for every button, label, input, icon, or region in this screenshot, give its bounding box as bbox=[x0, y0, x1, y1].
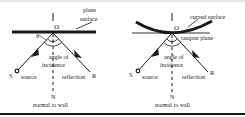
point-N-label: N bbox=[51, 94, 56, 100]
plane-label-pointer bbox=[76, 22, 92, 29]
reflected-arrow-icon bbox=[74, 50, 82, 58]
point-R-label: R bbox=[210, 69, 215, 76]
angle-label-line2: incidence bbox=[160, 62, 183, 68]
angle-label-line1: angle of bbox=[49, 54, 69, 60]
source-point-icon bbox=[136, 69, 140, 73]
tangent-plane-label: tangent plane bbox=[181, 35, 213, 41]
bottom-border bbox=[0, 113, 245, 115]
incident-arrow-icon bbox=[31, 48, 39, 57]
source-label: source bbox=[21, 74, 37, 80]
reflection-label: reflection bbox=[182, 74, 205, 80]
curved-label-pointer bbox=[188, 19, 198, 27]
plane-label-line2: surface bbox=[80, 16, 98, 22]
point-S-label: S bbox=[9, 72, 13, 79]
normal-label: normal to wall bbox=[33, 102, 68, 108]
reflection-diagram: θ O plane surface α angle of incidence S… bbox=[0, 0, 245, 117]
incident-arrow-icon bbox=[151, 48, 159, 57]
normal-label: normal to wall bbox=[155, 102, 190, 108]
theta-symbol: θ bbox=[171, 38, 174, 43]
point-N-label: N bbox=[170, 94, 175, 100]
left-panel-plane-reflection: θ O plane surface α angle of incidence S… bbox=[9, 7, 98, 108]
reflected-arrow-icon bbox=[192, 50, 200, 58]
source-point-icon bbox=[15, 69, 19, 73]
point-O-label: O bbox=[54, 23, 59, 31]
theta-symbol: θ bbox=[52, 38, 55, 43]
alpha-symbol: α bbox=[36, 33, 40, 39]
reflection-label: reflection bbox=[62, 74, 85, 80]
angle-label-line2: incidence bbox=[42, 62, 65, 68]
diagram-frame: θ O plane surface α angle of incidence S… bbox=[0, 0, 245, 117]
curved-surface-label: curved surface bbox=[190, 14, 225, 20]
point-R-label: R bbox=[92, 72, 97, 79]
point-S-label: S bbox=[129, 71, 133, 78]
plane-label-line1: plane bbox=[83, 7, 96, 13]
source-label: source bbox=[142, 74, 158, 80]
point-O-label: O bbox=[174, 24, 179, 32]
right-panel-curved-reflection: θ O curved surface tangent plane angle o… bbox=[129, 13, 225, 108]
angle-label-line1: angle of bbox=[164, 54, 184, 60]
